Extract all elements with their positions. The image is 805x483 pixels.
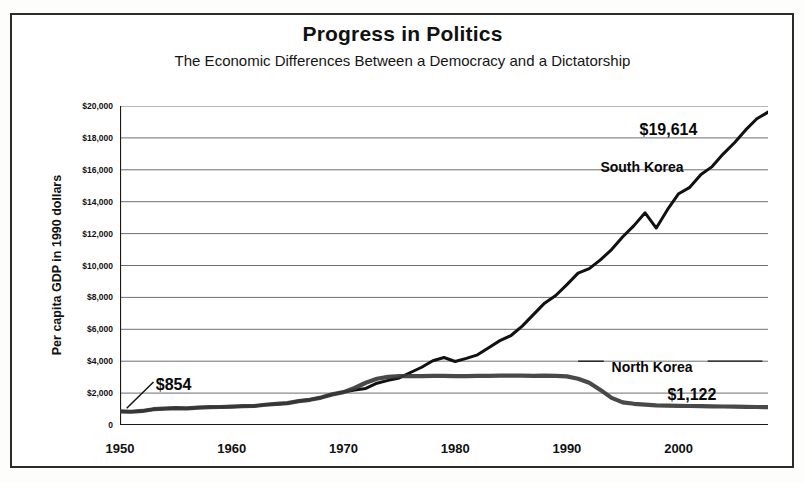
chart-page: Progress in Politics The Economic Differ… <box>0 0 805 483</box>
north-korea-end-value: $1,122 <box>667 386 716 404</box>
y-tick-label: $16,000 <box>82 165 113 175</box>
start-value-leader-line <box>127 382 154 408</box>
y-tick-label: $8,000 <box>87 292 113 302</box>
x-tick-label: 1960 <box>217 441 246 456</box>
y-tick-label: $10,000 <box>82 261 113 271</box>
plot-area: 0$2,000$4,000$6,000$8,000$10,000$12,000$… <box>120 106 768 425</box>
start-value: $854 <box>156 376 192 394</box>
y-tick-label: $18,000 <box>82 133 113 143</box>
x-tick-label: 1970 <box>329 441 358 456</box>
south-korea-series-label: South Korea <box>600 159 683 175</box>
chart-subtitle: The Economic Differences Between a Democ… <box>0 52 805 69</box>
y-tick-label: $6,000 <box>87 324 113 334</box>
north-korea-series-label: North Korea <box>612 359 693 375</box>
y-tick-label: $2,000 <box>87 388 113 398</box>
y-tick-label: 0 <box>108 420 113 430</box>
y-tick-label: $4,000 <box>87 356 113 366</box>
y-tick-label: $14,000 <box>82 197 113 207</box>
x-tick-label: 2000 <box>664 441 693 456</box>
x-tick-label: 1950 <box>106 441 135 456</box>
x-tick-label: 1990 <box>552 441 581 456</box>
chart-title: Progress in Politics <box>0 22 805 46</box>
y-axis-title: Per capita GDP in 1990 dollars <box>50 110 64 420</box>
south-korea-end-value: $19,614 <box>640 121 698 139</box>
x-tick-label: 1980 <box>441 441 470 456</box>
chart-canvas <box>120 106 768 425</box>
y-tick-label: $20,000 <box>82 101 113 111</box>
y-tick-label: $12,000 <box>82 229 113 239</box>
